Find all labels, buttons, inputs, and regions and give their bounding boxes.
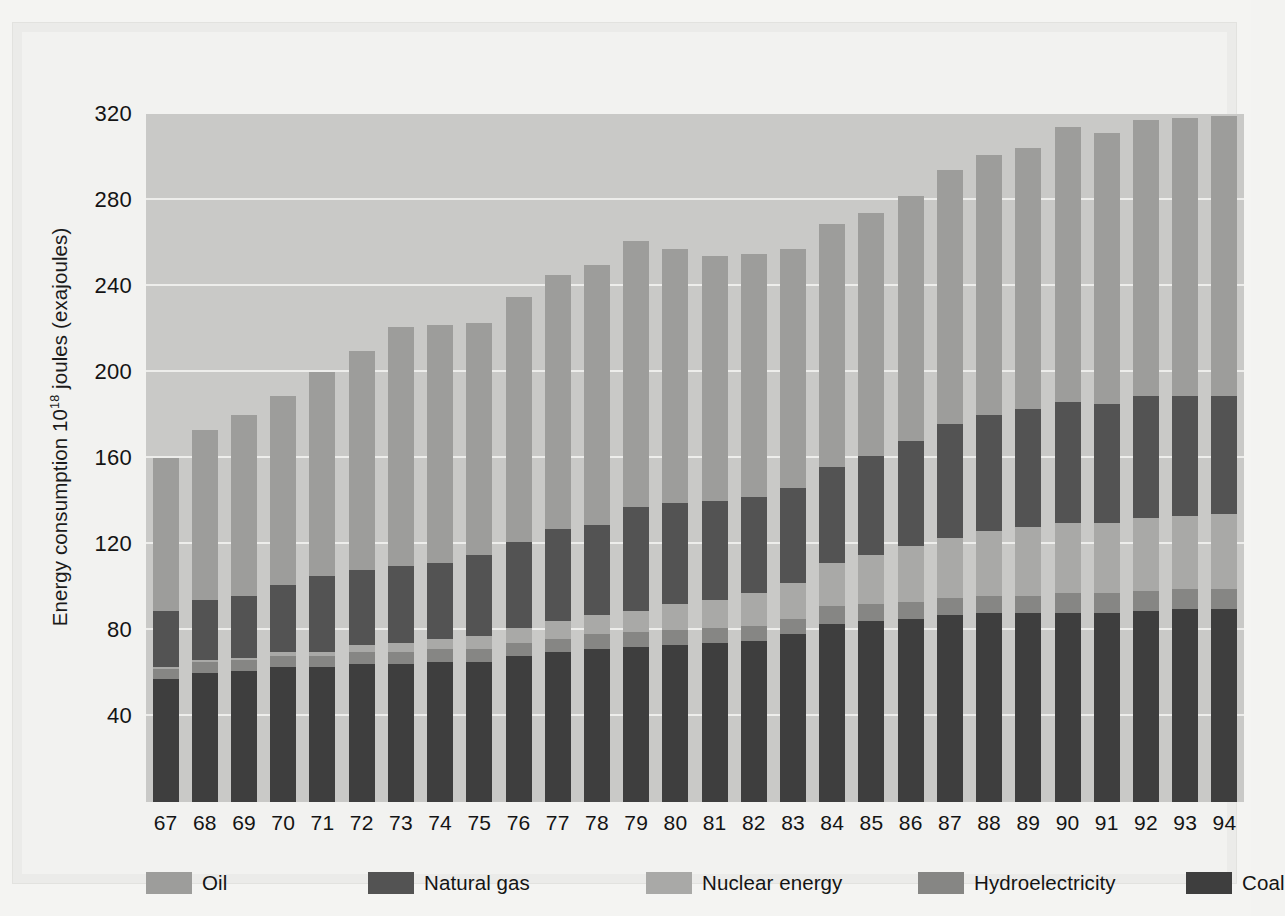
bar-segment-oil-70[interactable]: [270, 396, 296, 585]
bar-segment-natural_gas-67[interactable]: [153, 611, 179, 667]
bar-segment-oil-94[interactable]: [1211, 116, 1237, 396]
bar-segment-oil-89[interactable]: [1015, 148, 1041, 408]
bar-segment-hydro-86[interactable]: [898, 602, 924, 619]
bar-91[interactable]: [1094, 133, 1120, 802]
bar-segment-coal-76[interactable]: [506, 656, 532, 802]
bar-segment-coal-92[interactable]: [1133, 611, 1159, 802]
bar-segment-nuclear-79[interactable]: [623, 611, 649, 633]
bar-segment-hydro-72[interactable]: [349, 652, 375, 665]
bar-segment-natural_gas-91[interactable]: [1094, 404, 1120, 522]
bar-segment-natural_gas-82[interactable]: [741, 497, 767, 594]
bar-segment-coal-94[interactable]: [1211, 609, 1237, 803]
bar-segment-hydro-74[interactable]: [427, 649, 453, 662]
bar-segment-nuclear-92[interactable]: [1133, 518, 1159, 591]
bar-segment-coal-91[interactable]: [1094, 613, 1120, 802]
bar-segment-nuclear-88[interactable]: [976, 531, 1002, 596]
bar-segment-coal-72[interactable]: [349, 664, 375, 802]
bar-segment-nuclear-75[interactable]: [466, 636, 492, 649]
bar-segment-natural_gas-74[interactable]: [427, 563, 453, 638]
bar-segment-oil-82[interactable]: [741, 254, 767, 497]
bar-segment-oil-73[interactable]: [388, 327, 414, 566]
bar-76[interactable]: [506, 297, 532, 802]
bar-segment-natural_gas-71[interactable]: [309, 576, 335, 651]
bar-segment-natural_gas-73[interactable]: [388, 566, 414, 643]
bar-segment-oil-87[interactable]: [937, 170, 963, 424]
bar-segment-coal-77[interactable]: [545, 652, 571, 803]
bar-segment-hydro-69[interactable]: [231, 660, 257, 671]
bar-segment-oil-80[interactable]: [662, 249, 688, 503]
bar-segment-nuclear-85[interactable]: [858, 555, 884, 604]
bar-segment-nuclear-82[interactable]: [741, 593, 767, 625]
bar-72[interactable]: [349, 351, 375, 803]
bar-segment-hydro-68[interactable]: [192, 662, 218, 673]
bar-segment-natural_gas-80[interactable]: [662, 503, 688, 604]
bar-segment-coal-82[interactable]: [741, 641, 767, 802]
bar-segment-nuclear-67[interactable]: [153, 667, 179, 669]
bar-segment-hydro-87[interactable]: [937, 598, 963, 615]
bar-segment-nuclear-76[interactable]: [506, 628, 532, 643]
bar-segment-natural_gas-77[interactable]: [545, 529, 571, 621]
bar-segment-coal-87[interactable]: [937, 615, 963, 802]
bar-segment-nuclear-91[interactable]: [1094, 523, 1120, 594]
bar-segment-natural_gas-89[interactable]: [1015, 409, 1041, 527]
bar-segment-natural_gas-85[interactable]: [858, 456, 884, 555]
bar-segment-nuclear-83[interactable]: [780, 583, 806, 620]
bar-segment-hydro-73[interactable]: [388, 652, 414, 665]
bar-segment-natural_gas-83[interactable]: [780, 488, 806, 583]
bar-segment-nuclear-93[interactable]: [1172, 516, 1198, 589]
bar-segment-natural_gas-84[interactable]: [819, 467, 845, 564]
bar-segment-hydro-70[interactable]: [270, 656, 296, 667]
bar-segment-oil-93[interactable]: [1172, 118, 1198, 395]
legend-item-nuclear[interactable]: Nuclear energy: [646, 870, 842, 896]
bar-segment-oil-88[interactable]: [976, 155, 1002, 415]
legend-item-hydro[interactable]: Hydroelectricity: [918, 870, 1116, 896]
bar-82[interactable]: [741, 254, 767, 802]
bar-segment-nuclear-84[interactable]: [819, 563, 845, 606]
legend-item-natural_gas[interactable]: Natural gas: [368, 870, 530, 896]
bar-segment-nuclear-81[interactable]: [702, 600, 728, 628]
bar-segment-hydro-88[interactable]: [976, 596, 1002, 613]
bar-segment-oil-84[interactable]: [819, 224, 845, 467]
bar-segment-nuclear-86[interactable]: [898, 546, 924, 602]
bar-83[interactable]: [780, 249, 806, 802]
bar-segment-oil-83[interactable]: [780, 249, 806, 488]
bar-segment-coal-93[interactable]: [1172, 609, 1198, 803]
bar-segment-nuclear-69[interactable]: [231, 658, 257, 660]
bar-segment-coal-68[interactable]: [192, 673, 218, 802]
bar-segment-hydro-71[interactable]: [309, 656, 335, 667]
bar-segment-coal-67[interactable]: [153, 679, 179, 802]
bar-segment-natural_gas-93[interactable]: [1172, 396, 1198, 516]
bar-segment-natural_gas-86[interactable]: [898, 441, 924, 546]
bar-segment-coal-86[interactable]: [898, 619, 924, 802]
bar-87[interactable]: [937, 170, 963, 802]
bar-segment-hydro-93[interactable]: [1172, 589, 1198, 608]
bar-81[interactable]: [702, 256, 728, 802]
bar-segment-hydro-67[interactable]: [153, 669, 179, 680]
bar-77[interactable]: [545, 275, 571, 802]
bar-segment-nuclear-90[interactable]: [1055, 523, 1081, 594]
bar-segment-oil-69[interactable]: [231, 415, 257, 596]
bar-segment-natural_gas-94[interactable]: [1211, 396, 1237, 514]
bar-segment-oil-91[interactable]: [1094, 133, 1120, 404]
bar-segment-nuclear-87[interactable]: [937, 538, 963, 598]
bar-segment-coal-80[interactable]: [662, 645, 688, 802]
bar-segment-oil-77[interactable]: [545, 275, 571, 529]
bar-segment-hydro-81[interactable]: [702, 628, 728, 643]
bar-segment-hydro-94[interactable]: [1211, 589, 1237, 608]
bar-segment-natural_gas-72[interactable]: [349, 570, 375, 645]
bar-segment-coal-70[interactable]: [270, 667, 296, 802]
bar-segment-nuclear-89[interactable]: [1015, 527, 1041, 596]
bar-segment-oil-68[interactable]: [192, 430, 218, 600]
bar-94[interactable]: [1211, 116, 1237, 802]
bar-segment-nuclear-94[interactable]: [1211, 514, 1237, 589]
bar-75[interactable]: [466, 323, 492, 802]
bar-segment-natural_gas-70[interactable]: [270, 585, 296, 652]
bar-segment-coal-78[interactable]: [584, 649, 610, 802]
bar-segment-hydro-76[interactable]: [506, 643, 532, 656]
bar-segment-coal-84[interactable]: [819, 624, 845, 802]
bar-segment-oil-74[interactable]: [427, 325, 453, 564]
bar-86[interactable]: [898, 196, 924, 802]
bar-segment-oil-67[interactable]: [153, 458, 179, 611]
bar-segment-hydro-92[interactable]: [1133, 591, 1159, 610]
bar-segment-oil-76[interactable]: [506, 297, 532, 542]
